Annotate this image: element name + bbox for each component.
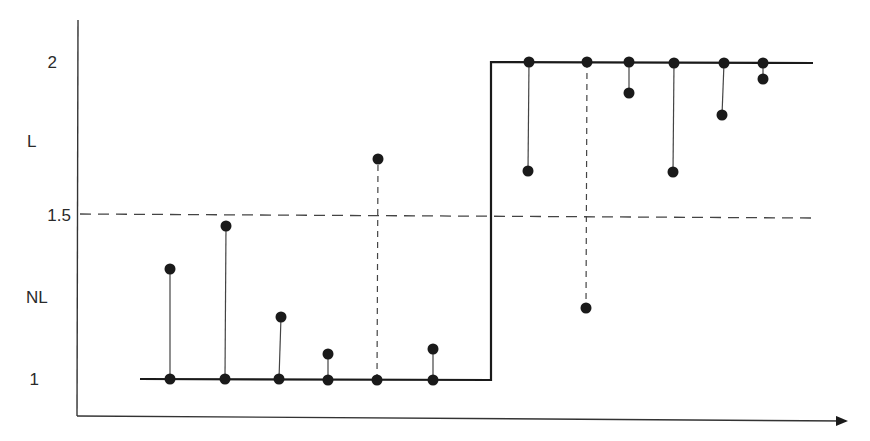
x-axis (77, 416, 846, 421)
data-point (276, 312, 287, 323)
data-point (372, 375, 383, 386)
stem-chart: 2 1.5 1 L NL (0, 0, 870, 441)
stems (170, 62, 763, 380)
stem (528, 62, 529, 171)
data-point (581, 303, 592, 314)
data-point (221, 221, 232, 232)
stem (722, 63, 724, 115)
data-point (624, 88, 635, 99)
data-point (717, 110, 728, 121)
data-point (582, 57, 593, 68)
step-function (140, 62, 813, 380)
stem (279, 317, 281, 379)
stem (673, 63, 674, 172)
stem (225, 226, 226, 379)
misclassified-stems (377, 62, 587, 380)
y-axis (77, 20, 78, 416)
data-point (524, 57, 535, 68)
data-point (428, 344, 439, 355)
baseline-dots (165, 57, 769, 386)
data-point (758, 58, 769, 69)
data-point (669, 58, 680, 69)
y-tick-2: 2 (48, 53, 57, 72)
data-point (719, 58, 730, 69)
y-tick-1-5: 1.5 (47, 206, 71, 225)
data-point (323, 349, 334, 360)
y-tick-1: 1 (30, 370, 39, 389)
label-NL: NL (26, 288, 48, 307)
data-point (165, 264, 176, 275)
label-L: L (27, 132, 36, 151)
data-point (373, 154, 384, 165)
data-point (428, 375, 439, 386)
threshold-line (80, 214, 812, 218)
data-point (220, 374, 231, 385)
data-point (165, 374, 176, 385)
dashed-stem (586, 62, 587, 308)
data-point (274, 374, 285, 385)
data-point (624, 57, 635, 68)
data-point (523, 166, 534, 177)
data-point (758, 74, 769, 85)
dashed-stem (377, 159, 378, 380)
data-point (323, 375, 334, 386)
data-point (668, 167, 679, 178)
